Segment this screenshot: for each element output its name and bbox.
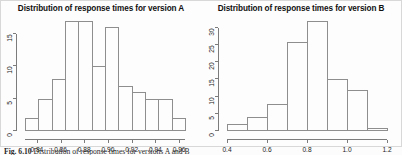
x-axis-baseline-a <box>25 130 185 131</box>
histogram-bars-version-b <box>227 21 387 131</box>
y-axis-tick-label-a: 15 <box>6 34 13 41</box>
histogram-bar <box>38 99 52 131</box>
histogram-bar <box>247 117 268 131</box>
x-axis-tick-a <box>132 140 133 143</box>
y-axis-tick-a <box>13 33 16 34</box>
x-axis-tick-a <box>37 140 38 143</box>
histogram-bar <box>307 21 328 131</box>
histogram-bar <box>267 104 288 132</box>
x-axis-tick-a <box>84 140 85 143</box>
histogram-bar <box>347 90 368 131</box>
y-axis-tick-b <box>215 61 218 62</box>
y-axis-tick-a <box>13 98 16 99</box>
y-axis-tick-b <box>215 130 218 131</box>
x-axis-line-a <box>25 139 185 140</box>
y-axis-tick-label-b: 30 <box>208 28 215 35</box>
y-axis-tick-b <box>215 96 218 97</box>
figure-caption-text: Distribution of response times for versi… <box>34 147 190 155</box>
figure-caption: Fig. 6.10 Distribution of response times… <box>4 147 400 155</box>
histogram-bar <box>118 86 132 131</box>
x-axis-tick-b <box>307 140 308 143</box>
y-axis-tick-label-b: 0 <box>208 133 215 137</box>
y-axis-tick-b <box>215 44 218 45</box>
histogram-bar <box>132 92 146 131</box>
histogram-bars-version-a <box>25 21 185 131</box>
histogram-bar <box>65 21 79 131</box>
histogram-bar <box>158 99 172 131</box>
plot-area-version-b: 0.40.60.81.01.2051015202530 <box>227 21 387 131</box>
x-axis-tick-a <box>179 140 180 143</box>
y-axis-tick-a <box>13 130 16 131</box>
y-axis-tick-a <box>13 65 16 66</box>
y-axis-tick-label-b: 5 <box>208 116 215 120</box>
y-axis-tick-label-a: 0 <box>6 133 13 137</box>
x-axis-tick-b <box>227 140 228 143</box>
x-axis-baseline-b <box>227 130 387 131</box>
x-axis-tick-b <box>387 140 388 143</box>
x-axis-tick-b <box>267 140 268 143</box>
y-axis-line-b <box>218 28 219 131</box>
histogram-bar <box>105 27 119 131</box>
histogram-bar <box>327 79 348 131</box>
chart-panel-version-a: Distribution of response times for versi… <box>1 1 201 146</box>
histogram-bar <box>78 21 92 131</box>
chart-title-version-b: Distribution of response times for versi… <box>201 4 401 13</box>
y-axis-tick-b <box>215 78 218 79</box>
histogram-bar <box>287 42 308 131</box>
x-axis-tick-a <box>108 140 109 143</box>
y-axis-tick-label-a: 10 <box>6 67 13 74</box>
x-axis-tick-a <box>155 140 156 143</box>
y-axis-tick-label-a: 5 <box>6 101 13 105</box>
x-axis-tick-b <box>347 140 348 143</box>
x-axis-tick-a <box>61 140 62 143</box>
y-axis-tick-label-b: 25 <box>208 45 215 52</box>
histogram-bar <box>92 66 106 131</box>
y-axis-tick-label-b: 15 <box>208 80 215 87</box>
y-axis-tick-b <box>215 113 218 114</box>
chart-panel-version-b: Distribution of response times for versi… <box>201 1 401 146</box>
histogram-bar <box>145 99 159 131</box>
figure-page: Distribution of response times for versi… <box>0 0 402 155</box>
chart-title-version-a: Distribution of response times for versi… <box>1 4 201 13</box>
y-axis-line-a <box>16 34 17 131</box>
plot-area-version-a: 0.840.860.880.900.920.940.96051015 <box>25 21 185 131</box>
y-axis-tick-b <box>215 27 218 28</box>
y-axis-tick-label-b: 10 <box>208 97 215 104</box>
histogram-bar <box>52 79 66 131</box>
y-axis-tick-label-b: 20 <box>208 63 215 70</box>
figure-caption-label: Fig. 6.10 <box>4 147 32 155</box>
figure-frame: Distribution of response times for versi… <box>0 0 402 147</box>
